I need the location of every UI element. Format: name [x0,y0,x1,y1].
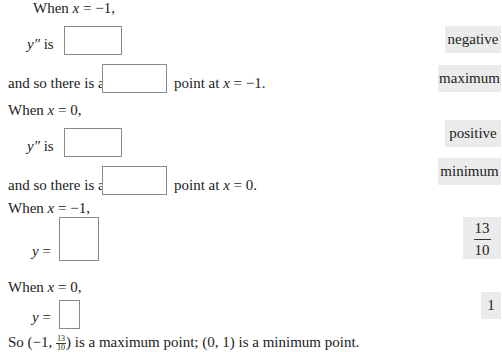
when-text: When [8,279,48,295]
condition-x-minus-1-y-heading: When x = −1, [8,200,90,217]
when-text: When [8,102,48,118]
drop-target-y-value-2[interactable] [59,300,80,329]
fraction-13-10: 1310 [474,221,491,258]
condition-x-minus-1-heading: When x = −1, [33,0,115,17]
and-so-text: and so there is a [8,75,105,91]
equals-text: = [39,243,51,259]
conclusion-part-a: So (−1, [8,334,56,350]
choice-negative[interactable]: negative [445,26,501,53]
choice-fraction-13-10[interactable]: 1310 [463,217,501,259]
equals-text: = 0, [54,102,81,118]
fraction-13-10: 1310 [56,335,66,352]
when-text: When [8,200,48,216]
equals-text: = −1, [79,0,115,16]
and-so-text: and so there is a [8,177,105,193]
choice-one[interactable]: 1 [481,292,501,319]
condition-x-0-heading: When x = 0, [8,102,81,119]
variable-x: x [223,177,230,193]
point-at-text: point at [174,75,223,91]
equals-text: = [39,309,51,325]
equals-text: = 0. [230,177,257,193]
y-value-label-2: y = [32,309,51,326]
equals-text: = −1. [230,75,266,91]
variable-y-double-prime: y″ [27,36,40,52]
fraction-denominator: 10 [56,344,66,352]
equals-text: = 0, [54,279,81,295]
drop-target-point-type-1[interactable] [102,64,167,93]
drop-target-sign-2[interactable] [64,128,122,157]
drop-target-y-value-1[interactable] [59,217,99,261]
variable-x: x [223,75,230,91]
choice-label: maximum [439,70,500,86]
choice-label: minimum [440,163,498,179]
variable-y: y [32,243,39,259]
second-derivative-label-2: y″ is [27,138,54,155]
choice-label: positive [449,125,497,141]
is-text: is [40,138,54,154]
conclusion-part-b: ) is a maximum point; (0, 1) is a minimu… [66,334,359,350]
variable-y: y [32,309,39,325]
choice-minimum[interactable]: minimum [438,158,501,185]
point-at-text: point at [174,177,223,193]
when-text: When [33,0,73,16]
point-type-label-1: and so there is a [8,75,105,92]
fraction-denominator: 10 [474,240,491,258]
y-value-label-1: y = [32,243,51,260]
point-type-label-2: and so there is a [8,177,105,194]
drop-target-point-type-2[interactable] [102,166,167,195]
choice-label: negative [448,31,499,47]
point-location-label-2: point at x = 0. [174,177,257,194]
condition-x-0-y-heading: When x = 0, [8,279,81,296]
equals-text: = −1, [54,200,90,216]
choice-positive[interactable]: positive [445,120,501,147]
drop-target-sign-1[interactable] [64,26,122,55]
choice-maximum[interactable]: maximum [438,65,501,92]
second-derivative-label-1: y″ is [27,36,54,53]
fraction-numerator: 13 [474,221,491,240]
conclusion-text: So (−1, 1310) is a maximum point; (0, 1)… [8,334,359,352]
choice-label: 1 [487,297,495,313]
is-text: is [40,36,54,52]
point-location-label-1: point at x = −1. [174,75,266,92]
variable-y-double-prime: y″ [27,138,40,154]
